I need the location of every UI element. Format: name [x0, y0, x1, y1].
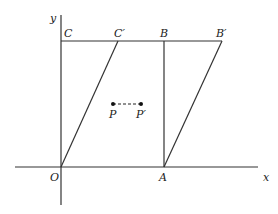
shear-diagram: y x O A C C′ B B′ P P′ [0, 0, 278, 214]
label-c-prime: C′ [114, 27, 125, 40]
label-b-prime: B′ [215, 27, 227, 40]
edge-o-c-prime [61, 41, 118, 167]
y-axis-label: y [49, 12, 57, 25]
label-b: B [159, 27, 168, 40]
label-p: P [108, 108, 117, 121]
edge-a-b-prime [164, 41, 222, 167]
point-p-dot [111, 102, 115, 106]
x-axis-label: x [263, 171, 270, 184]
label-c: C [64, 27, 73, 40]
label-a: A [158, 171, 167, 184]
label-p-prime: P′ [135, 108, 146, 121]
point-p-prime-dot [139, 102, 143, 106]
label-o: O [50, 171, 59, 184]
